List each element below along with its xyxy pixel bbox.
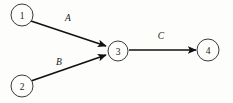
edge-line-a[interactable] [31,21,106,46]
edge-label-c: C [158,31,165,41]
edge-group-c[interactable]: C [129,31,196,50]
node-group-1[interactable]: 1 [11,4,33,26]
node-group-3[interactable]: 3 [108,41,128,61]
edge-label-a: A [64,13,71,23]
node-label-3: 3 [116,47,121,57]
edge-label-b: B [56,57,62,67]
node-label-4: 4 [206,46,211,56]
edge-line-b[interactable] [31,55,106,81]
node-group-4[interactable]: 4 [197,39,219,61]
graph-svg: A B C 1 2 3 4 [0,0,233,103]
graph-diagram-canvas: A B C 1 2 3 4 [0,0,233,103]
node-group-2[interactable]: 2 [11,75,33,97]
node-label-1: 1 [20,11,25,21]
edge-group-a[interactable]: A [31,13,106,46]
edge-group-b[interactable]: B [31,55,106,81]
node-label-2: 2 [20,82,25,92]
